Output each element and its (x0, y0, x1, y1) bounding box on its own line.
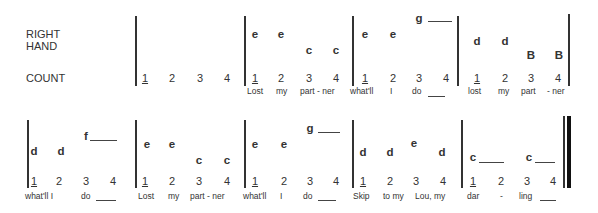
note: e (281, 138, 287, 150)
hand-label: HAND (26, 40, 60, 52)
count-beat: 3 (197, 72, 203, 84)
count-beat: 4 (555, 72, 561, 84)
lyric: ling (519, 191, 532, 201)
count-beat: 3 (306, 72, 312, 84)
count-beat: 1 (142, 175, 148, 187)
barline (461, 120, 463, 188)
note: c (224, 154, 230, 166)
lyric: what'll (350, 86, 373, 96)
lyric: to my (383, 191, 404, 201)
count-beat: 3 (528, 72, 534, 84)
note: c (196, 154, 202, 166)
barline (244, 16, 246, 86)
count-beat: 2 (169, 72, 175, 84)
count-beat: 1 (474, 72, 480, 84)
count-beat: 4 (333, 72, 339, 84)
count-beat: 2 (278, 72, 284, 84)
lyric: Lost (138, 191, 154, 201)
count-beat: 1 (470, 175, 476, 187)
count-beat: 2 (390, 72, 396, 84)
hold-line (540, 200, 556, 201)
count-beat: 3 (524, 175, 530, 187)
note: g (415, 12, 422, 24)
note: e (411, 137, 417, 149)
count-beat: 1 (31, 175, 37, 187)
count-beat: 1 (252, 72, 258, 84)
note: e (278, 28, 284, 40)
hold-line (90, 140, 117, 141)
hold-line (318, 132, 340, 133)
lyric: Lou, my (415, 191, 445, 201)
note: e (252, 138, 258, 150)
final-barline-thin (563, 116, 565, 188)
count-beat: 1 (142, 72, 148, 84)
count-beat: 2 (56, 175, 62, 187)
barline (568, 14, 570, 86)
barline (135, 16, 137, 86)
count-beat: 4 (443, 72, 449, 84)
hold-line (96, 200, 116, 201)
count-beat: 2 (387, 175, 393, 187)
count-beat: 3 (413, 175, 419, 187)
count-beat: 2 (281, 175, 287, 187)
note: e (362, 28, 368, 40)
barline (27, 120, 29, 188)
hold-line (428, 21, 452, 22)
lyric: do (81, 191, 90, 201)
count-beat: 4 (110, 175, 116, 187)
lyric: Lost (247, 86, 263, 96)
lyric: part - ner (190, 191, 225, 201)
right-hand-label: RIGHT HAND (26, 28, 60, 52)
lyric: I (390, 86, 392, 96)
lyric: lost (468, 86, 481, 96)
count-beat: 4 (333, 175, 339, 187)
hold-line (535, 162, 555, 163)
count-beat: 2 (502, 72, 508, 84)
hold-line (479, 162, 504, 163)
note: c (306, 44, 312, 56)
note: d (57, 145, 64, 157)
count-beat: 4 (224, 175, 230, 187)
note: e (169, 138, 175, 150)
note: e (144, 138, 150, 150)
barline (352, 120, 354, 188)
lyric: - ner (547, 86, 564, 96)
note: g (306, 122, 313, 134)
count-beat: 3 (416, 72, 422, 84)
lyric: my (276, 86, 287, 96)
note: d (359, 146, 366, 158)
note: B (527, 49, 535, 61)
lyric: my (498, 86, 509, 96)
count-beat: 1 (360, 175, 366, 187)
count-beat: 2 (169, 175, 175, 187)
note: B (555, 49, 563, 61)
lyric: I (280, 191, 282, 201)
lyric: dar (467, 191, 479, 201)
barline (135, 120, 137, 188)
count-beat: 1 (362, 72, 368, 84)
lyric: do (303, 191, 312, 201)
barline (244, 120, 246, 188)
hold-line (428, 96, 445, 97)
barline (352, 16, 354, 86)
lyric: Skip (353, 191, 370, 201)
note: e (390, 28, 396, 40)
count-beat: 2 (498, 175, 504, 187)
count-beat: 3 (196, 175, 202, 187)
note: d (386, 146, 393, 158)
note: c (333, 44, 339, 56)
note: c (470, 151, 476, 163)
barline (457, 16, 459, 86)
count-beat: 4 (224, 72, 230, 84)
final-barline-thick (567, 116, 571, 188)
note: d (473, 35, 480, 47)
note: f (84, 130, 88, 142)
note: d (438, 146, 445, 158)
lyric: what'll I (25, 191, 53, 201)
lyric: do (412, 86, 421, 96)
lyric: part (521, 86, 536, 96)
lyric: part - ner (300, 86, 335, 96)
count-label: COUNT (26, 72, 65, 84)
count-beat: 3 (83, 175, 89, 187)
lyric: my (168, 191, 179, 201)
